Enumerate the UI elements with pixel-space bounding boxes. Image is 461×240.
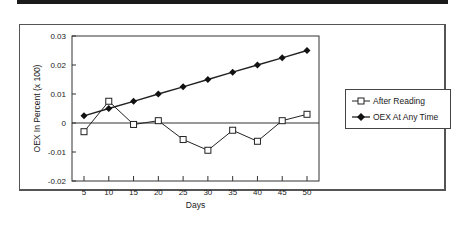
- x-tick-label: 20: [154, 188, 163, 197]
- x-axis-label: Days: [186, 200, 205, 210]
- open-square-marker-icon: [352, 96, 370, 106]
- x-tick-label: 25: [179, 188, 188, 197]
- data-point-square: [131, 121, 137, 127]
- data-point-diamond: [279, 54, 286, 61]
- data-point-square: [205, 147, 211, 153]
- data-point-diamond: [105, 105, 112, 112]
- data-point-diamond: [254, 62, 261, 69]
- y-tick-label: 0.03: [50, 32, 66, 41]
- x-tick-label: 45: [278, 188, 287, 197]
- x-tick-label: 5: [82, 188, 87, 197]
- y-tick-label: 0.02: [50, 61, 66, 70]
- data-point-square: [106, 98, 112, 104]
- data-point-square: [254, 138, 260, 144]
- data-point-square: [304, 111, 310, 117]
- x-tick-label: 10: [104, 188, 113, 197]
- legend-label: OEX At Any Time: [373, 112, 438, 122]
- legend-label: After Reading: [373, 96, 425, 106]
- data-point-diamond: [81, 112, 88, 119]
- legend-item-after-reading: After Reading: [352, 94, 425, 108]
- x-tick-label: 40: [253, 188, 262, 197]
- data-point-square: [180, 137, 186, 143]
- filled-diamond-marker-icon: [352, 112, 370, 122]
- x-tick-label: 15: [129, 188, 138, 197]
- chart-legend: After Reading OEX At Any Time: [345, 89, 451, 129]
- series-line-after-reading: [84, 101, 307, 150]
- y-tick-label: -0.01: [48, 148, 67, 157]
- data-point-diamond: [229, 69, 236, 76]
- x-tick-label: 50: [303, 188, 312, 197]
- y-tick-label: 0: [62, 119, 67, 128]
- data-point-square: [81, 129, 87, 135]
- data-point-diamond: [204, 76, 211, 83]
- y-tick-label: -0.02: [48, 177, 67, 186]
- data-point-square: [155, 118, 161, 124]
- data-point-diamond: [304, 47, 311, 54]
- series-line-oex-at-any-time: [84, 51, 307, 116]
- data-point-diamond: [130, 98, 137, 105]
- x-tick-label: 35: [228, 188, 237, 197]
- x-tick-label: 30: [203, 188, 212, 197]
- data-point-diamond: [155, 91, 162, 98]
- data-point-square: [279, 118, 285, 124]
- data-point-diamond: [180, 83, 187, 90]
- y-axis-label: OEX In Percent (x 100): [32, 64, 42, 152]
- y-tick-label: 0.01: [50, 90, 66, 99]
- data-point-square: [230, 127, 236, 133]
- legend-item-oex-at-any-time: OEX At Any Time: [352, 110, 438, 124]
